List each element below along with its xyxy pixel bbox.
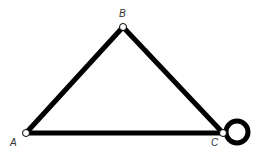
edge-b-c: [123, 27, 223, 133]
edge-a-b: [26, 27, 123, 133]
label-c: C: [211, 137, 218, 148]
node-b: [120, 24, 127, 31]
node-a: [23, 130, 30, 137]
graph-canvas: [0, 0, 268, 157]
label-b: B: [119, 8, 126, 19]
self-loop-c: [226, 121, 248, 143]
node-c: [220, 130, 227, 137]
label-a: A: [10, 137, 17, 148]
